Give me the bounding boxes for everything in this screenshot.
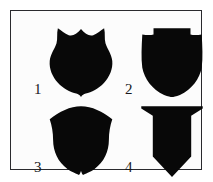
- shield-figure-1: [47, 27, 115, 97]
- shield-3-outline: [50, 106, 113, 175]
- shield-label-2: 2: [125, 82, 133, 97]
- shield-label-4: 4: [125, 160, 133, 175]
- shield-figure-3: [47, 105, 115, 175]
- shield-4-outline: [141, 106, 202, 177]
- shield-3-icon: [47, 105, 115, 175]
- shield-figure-4: [140, 105, 204, 177]
- shield-2-icon: [139, 27, 205, 97]
- shield-label-1: 1: [34, 82, 42, 97]
- shield-1-outline: [50, 28, 113, 97]
- shield-2-outline: [142, 28, 203, 97]
- shield-1-icon: [47, 27, 115, 97]
- shield-4-icon: [140, 105, 204, 177]
- shield-label-3: 3: [34, 160, 42, 175]
- plate-border: 1 2 3 4: [10, 10, 202, 170]
- figure-panel: 1 2 3 4: [0, 0, 213, 182]
- shield-figure-2: [139, 27, 205, 97]
